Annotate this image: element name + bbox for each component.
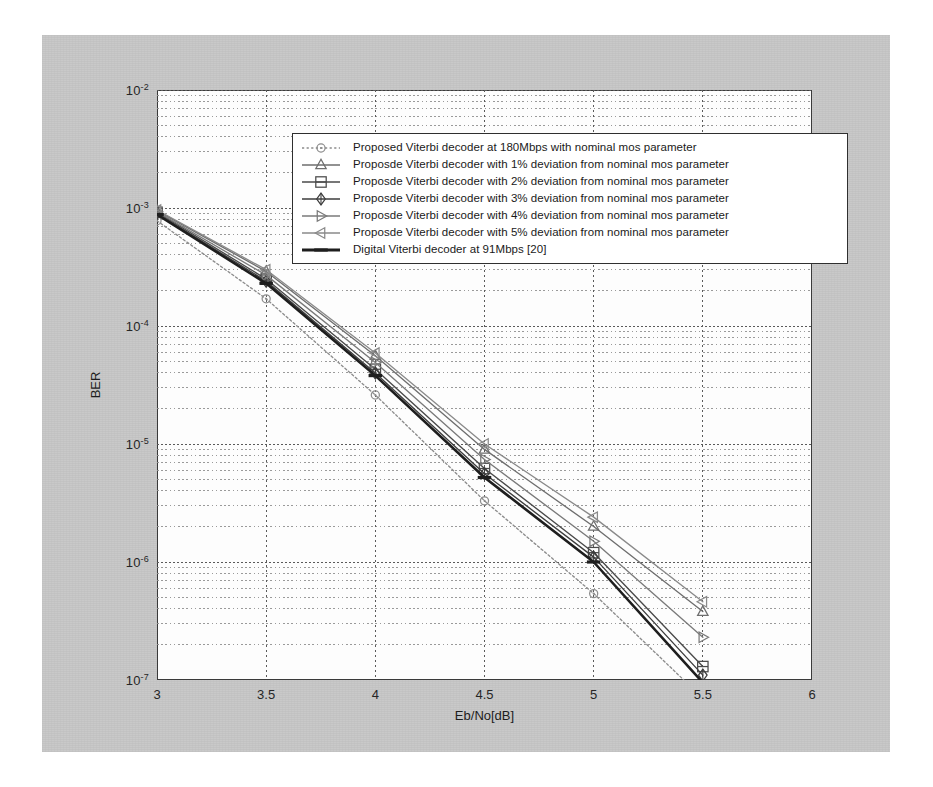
legend-label: Proposde Viterbi decoder with 2% deviati… xyxy=(353,176,729,188)
figure-panel: 10-210-310-410-510-610-7 33.544.555.56 E… xyxy=(42,35,890,752)
y-tick-label: 10-7 xyxy=(126,672,149,688)
legend-marker-circle-icon xyxy=(299,140,343,156)
y-tick-label: 10-2 xyxy=(126,82,149,98)
legend-marker-diamond-icon xyxy=(299,191,343,207)
legend-item: Proposde Viterbi decoder with 4% deviati… xyxy=(293,207,847,224)
legend-item: Proposde Viterbi decoder with 3% deviati… xyxy=(293,190,847,207)
data-marker-triangle-right xyxy=(699,632,708,642)
legend-item: Proposde Viterbi decoder with 2% deviati… xyxy=(293,173,847,190)
legend-label: Digital Viterbi decoder at 91Mbps [20] xyxy=(353,244,546,256)
legend-label: Proposde Viterbi decoder with 3% deviati… xyxy=(353,193,729,205)
x-tick-label: 3 xyxy=(153,687,160,702)
data-marker-circle xyxy=(480,497,488,505)
y-tick-label: 10-3 xyxy=(126,200,149,216)
data-marker-triangle-up xyxy=(316,159,326,168)
y-tick-label: 10-6 xyxy=(126,554,149,570)
legend-marker-triangle-right-icon xyxy=(299,208,343,224)
series-4 xyxy=(157,207,709,643)
legend-marker-triangle-left-icon xyxy=(299,225,343,241)
data-marker-circle xyxy=(371,391,379,399)
chart-legend: Proposed Viterbi decoder at 180Mbps with… xyxy=(292,133,848,264)
legend-item: Proposde Viterbi decoder with 1% deviati… xyxy=(293,156,847,173)
data-marker-circle xyxy=(317,143,325,151)
y-tick-label: 10-5 xyxy=(126,436,149,452)
legend-item: Proposde Viterbi decoder with 5% deviati… xyxy=(293,224,847,241)
x-tick-label: 5.5 xyxy=(694,687,712,702)
legend-item: Digital Viterbi decoder at 91Mbps [20] xyxy=(293,241,847,258)
x-tick-label: 4.5 xyxy=(475,687,493,702)
x-tick-label: 5 xyxy=(590,687,597,702)
legend-label: Proposde Viterbi decoder with 4% deviati… xyxy=(353,210,729,222)
x-tick-label: 3.5 xyxy=(257,687,275,702)
series-6 xyxy=(157,215,710,680)
data-marker-square xyxy=(316,176,326,186)
x-tick-label: 6 xyxy=(808,687,815,702)
legend-marker-square-icon xyxy=(299,174,343,190)
y-axis-label: BER xyxy=(88,372,103,399)
y-tick-label: 10-4 xyxy=(126,318,149,334)
data-series-group xyxy=(157,205,710,680)
legend-label: Proposed Viterbi decoder at 180Mbps with… xyxy=(353,142,697,154)
legend-marker-triangle-up-icon xyxy=(299,157,343,173)
legend-item: Proposed Viterbi decoder at 180Mbps with… xyxy=(293,139,847,156)
series-2 xyxy=(157,207,708,672)
x-axis-label: Eb/No[dB] xyxy=(455,708,514,723)
legend-label: Proposde Viterbi decoder with 1% deviati… xyxy=(353,159,729,171)
series-0 xyxy=(157,217,707,680)
x-tick-label: 4 xyxy=(372,687,379,702)
legend-label: Proposde Viterbi decoder with 5% deviati… xyxy=(353,227,729,239)
legend-marker-line-thick-icon xyxy=(299,242,343,258)
